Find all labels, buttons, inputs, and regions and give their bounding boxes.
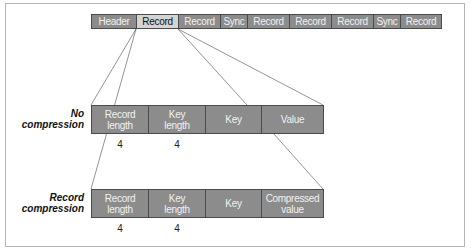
- row-label: Record compression: [4, 192, 84, 214]
- record-cell: Record: [289, 14, 332, 29]
- key-length-cell: Keylength: [148, 105, 206, 134]
- record-cell: Record: [400, 14, 442, 29]
- sync-cell: Sync: [373, 14, 401, 29]
- row-label: No compression: [4, 108, 84, 130]
- row-label-line1: Record: [4, 192, 84, 203]
- record-cell: Record: [247, 14, 290, 29]
- header-cell: Header: [91, 14, 137, 29]
- key-length-cell: Keylength: [148, 189, 206, 218]
- row-label-line2: compression: [4, 119, 84, 130]
- key-cell: Key: [205, 189, 262, 218]
- row-label-line1: No: [4, 108, 84, 119]
- value-cell: Value: [261, 105, 324, 134]
- compressed-value-cell: Compressedvalue: [261, 189, 324, 218]
- record-length-cell: Recordlength: [91, 189, 149, 218]
- size-label: 4: [167, 139, 187, 150]
- size-label: 4: [110, 223, 130, 234]
- size-label: 4: [110, 139, 130, 150]
- size-label: 4: [167, 223, 187, 234]
- record-cell-highlighted: Record: [136, 14, 179, 29]
- row-label-line2: compression: [4, 203, 84, 214]
- record-length-cell: Recordlength: [91, 105, 149, 134]
- key-cell: Key: [205, 105, 262, 134]
- sync-cell: Sync: [220, 14, 248, 29]
- record-cell: Record: [178, 14, 221, 29]
- record-cell: Record: [331, 14, 374, 29]
